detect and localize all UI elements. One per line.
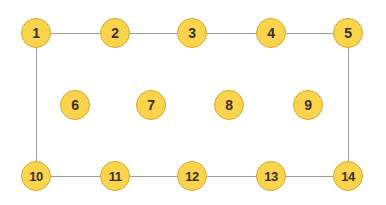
node-label: 2 (111, 26, 119, 40)
node-label: 8 (225, 98, 233, 112)
node-3[interactable]: 3 (177, 18, 207, 48)
node-8[interactable]: 8 (214, 90, 244, 120)
node-1[interactable]: 1 (21, 18, 51, 48)
node-2[interactable]: 2 (100, 18, 130, 48)
diagram-canvas: 1234567891011121314 (0, 0, 386, 205)
node-label: 12 (185, 170, 198, 183)
node-12[interactable]: 12 (177, 161, 207, 191)
node-label: 4 (267, 26, 275, 40)
node-5[interactable]: 5 (333, 18, 363, 48)
node-label: 14 (341, 170, 354, 183)
node-10[interactable]: 10 (21, 161, 51, 191)
node-label: 1 (32, 26, 40, 40)
node-label: 6 (71, 98, 79, 112)
node-9[interactable]: 9 (293, 90, 323, 120)
node-label: 5 (344, 26, 352, 40)
node-label: 7 (147, 98, 155, 112)
node-4[interactable]: 4 (256, 18, 286, 48)
node-14[interactable]: 14 (333, 161, 363, 191)
node-7[interactable]: 7 (136, 90, 166, 120)
node-label: 11 (109, 170, 122, 183)
node-label: 10 (29, 170, 42, 183)
node-11[interactable]: 11 (100, 161, 130, 191)
node-13[interactable]: 13 (256, 161, 286, 191)
node-label: 9 (304, 98, 312, 112)
node-6[interactable]: 6 (60, 90, 90, 120)
node-label: 3 (188, 26, 196, 40)
node-label: 13 (264, 170, 277, 183)
node-layer: 1234567891011121314 (0, 0, 386, 205)
